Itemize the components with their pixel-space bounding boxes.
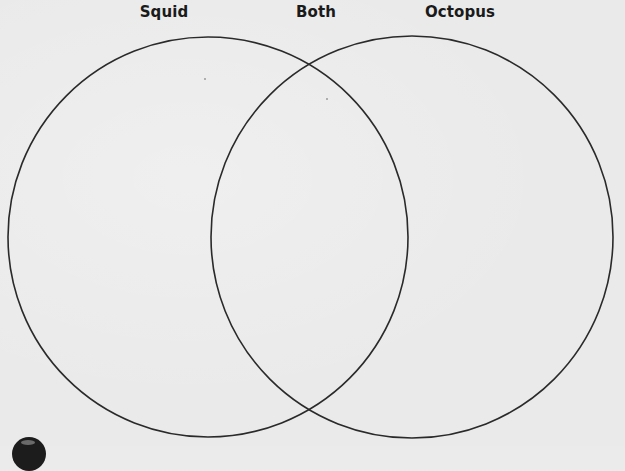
scan-speck — [204, 78, 206, 80]
scan-speck — [326, 98, 328, 100]
venn-circle-octopus[interactable] — [211, 36, 613, 438]
page-corner-icon — [12, 437, 46, 471]
venn-circle-squid[interactable] — [8, 37, 408, 437]
